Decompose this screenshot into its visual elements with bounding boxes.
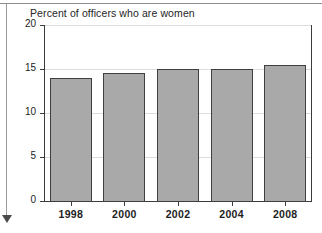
y-axis-tick-label: 5 — [12, 150, 36, 161]
x-axis-tick-label: 1998 — [41, 208, 101, 220]
bar-chart-figure: Percent of officers who are women 051015… — [0, 0, 322, 233]
y-axis-tick-mark — [40, 201, 45, 202]
bar — [264, 65, 306, 202]
x-axis-tick-mark — [285, 202, 286, 206]
bar — [50, 78, 92, 202]
down-arrow-icon — [2, 215, 12, 223]
plot-area: 05101520 19982000200220042008 — [44, 25, 312, 201]
y-axis-tick-label: 10 — [12, 106, 36, 117]
right-spine — [311, 25, 312, 202]
gridline — [45, 25, 311, 26]
bar — [103, 73, 145, 202]
y-axis-tick-label: 0 — [12, 194, 36, 205]
left-margin-rule — [6, 4, 7, 216]
x-axis-tick-mark — [232, 202, 233, 206]
bar — [211, 69, 253, 202]
x-axis-tick-mark — [178, 202, 179, 206]
y-axis-tick-mark — [40, 113, 45, 114]
y-axis-tick-label: 20 — [12, 18, 36, 29]
top-divider-rule — [0, 3, 322, 4]
x-axis-tick-label: 2002 — [148, 208, 208, 220]
y-axis-tick-mark — [40, 157, 45, 158]
bar — [157, 69, 199, 202]
y-axis-tick-label: 15 — [12, 62, 36, 73]
x-axis-tick-mark — [124, 202, 125, 206]
y-axis-tick-mark — [40, 25, 45, 26]
x-axis-tick-label: 2004 — [202, 208, 262, 220]
x-axis-tick-label: 2000 — [94, 208, 154, 220]
x-axis-tick-label: 2008 — [255, 208, 315, 220]
page-title: Percent of officers who are women — [30, 7, 195, 19]
y-axis-tick-mark — [40, 69, 45, 70]
x-axis-tick-mark — [71, 202, 72, 206]
